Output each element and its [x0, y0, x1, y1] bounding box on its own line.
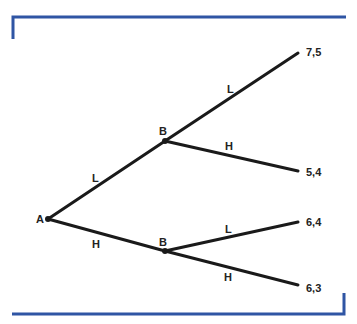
node-upper-label: B: [159, 125, 167, 137]
node-lower: [162, 248, 168, 254]
game-tree-diagram: A B B L H L H L H 7,5 5,4 6,4 6,3: [0, 0, 357, 324]
node-root: [45, 216, 51, 222]
edge-upper-top: [165, 53, 298, 141]
edge-root-upper-label: L: [92, 172, 99, 184]
top-left-frame-bracket: [13, 17, 346, 39]
payoff-2: 5,4: [306, 166, 322, 178]
node-lower-label: B: [159, 236, 167, 248]
edge-lower-bottom-label: H: [224, 271, 232, 283]
edge-lower-top-label: L: [225, 223, 232, 235]
edge-upper-bottom-label: H: [225, 140, 233, 152]
payoff-4: 6,3: [306, 282, 321, 294]
edge-root-upper: [48, 141, 165, 219]
edge-root-lower: [48, 219, 165, 251]
bottom-right-frame-bracket: [12, 293, 344, 314]
payoff-3: 6,4: [306, 216, 322, 228]
edge-upper-top-label: L: [227, 83, 234, 95]
node-upper: [162, 138, 168, 144]
payoff-1: 7,5: [306, 46, 321, 58]
node-root-label: A: [36, 213, 44, 225]
edge-root-lower-label: H: [92, 238, 100, 250]
